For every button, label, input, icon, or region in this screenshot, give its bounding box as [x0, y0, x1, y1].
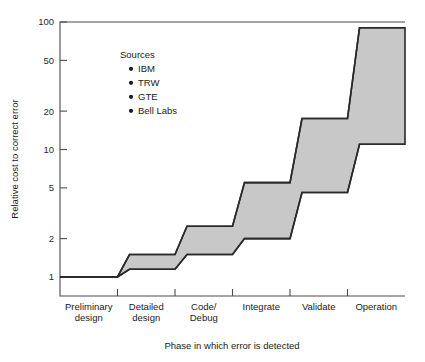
y-tick-label-2: 2 [49, 233, 54, 244]
legend-entry-gte: GTE [138, 91, 158, 102]
x-category-label-2: Debug [190, 312, 218, 323]
x-category-label-4: Validate [302, 301, 336, 312]
x-category-label-3: Integrate [243, 301, 281, 312]
y-tick-label-50: 50 [43, 55, 54, 66]
y-tick-label-1: 1 [49, 271, 54, 282]
legend-entry-trw: TRW [138, 77, 159, 88]
chart-container: 125102050100 PreliminarydesignDetailedde… [0, 0, 425, 362]
legend-bullet-icon [129, 95, 133, 99]
x-category-label-5: Operation [355, 301, 397, 312]
y-axis-title: Relative cost to correct error [9, 99, 20, 218]
x-category-label-1: design [132, 312, 160, 323]
cost-to-correct-error-chart: 125102050100 PreliminarydesignDetailedde… [0, 0, 425, 362]
x-axis-title: Phase in which error is detected [164, 340, 299, 351]
y-tick-label-10: 10 [43, 144, 54, 155]
legend-entry-bell-labs: Bell Labs [138, 105, 177, 116]
x-category-label-0: design [75, 312, 103, 323]
plot-area [60, 22, 405, 296]
x-axis-category-labels: PreliminarydesignDetaileddesignCode/Debu… [65, 301, 397, 323]
legend-bullet-icon [129, 81, 133, 85]
legend-bullet-icon [129, 109, 133, 113]
y-axis-tick-labels: 125102050100 [38, 16, 54, 282]
x-category-label-2: Code/ [191, 301, 217, 312]
legend-bullet-icon [129, 67, 133, 71]
y-tick-label-100: 100 [38, 16, 54, 27]
legend-entry-ibm: IBM [138, 63, 155, 74]
x-category-label-0: Preliminary [65, 301, 113, 312]
legend-title: Sources [120, 49, 155, 60]
x-category-label-1: Detailed [129, 301, 164, 312]
y-axis-ticks [60, 22, 67, 277]
y-tick-label-5: 5 [49, 182, 54, 193]
y-tick-label-20: 20 [43, 106, 54, 117]
